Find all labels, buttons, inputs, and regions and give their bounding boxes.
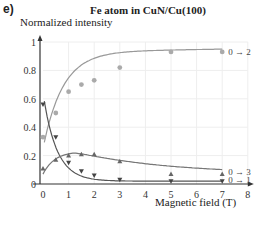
data-point-circle bbox=[79, 82, 84, 87]
data-point-circle bbox=[41, 135, 46, 140]
x-tick-label: 5 bbox=[169, 189, 174, 200]
chart-plot: 01234567800.20.40.60.810 → 20 → 10 → 3 bbox=[0, 0, 269, 234]
series-label: 0 → 3 bbox=[228, 167, 251, 177]
y-tick-label: 1 bbox=[31, 37, 36, 48]
data-point-circle bbox=[169, 50, 174, 55]
y-tick-label: 0.8 bbox=[24, 65, 37, 76]
x-tick-label: 6 bbox=[194, 189, 199, 200]
series-label: 0 → 2 bbox=[228, 47, 251, 57]
x-tick-label: 3 bbox=[117, 189, 122, 200]
x-tick-label: 1 bbox=[66, 189, 71, 200]
x-tick-label: 0 bbox=[41, 189, 46, 200]
y-tick-label: 0.6 bbox=[24, 94, 37, 105]
y-axis-arrow-icon bbox=[38, 35, 43, 41]
y-tick-label: 0 bbox=[31, 179, 36, 190]
data-point-triangle-down bbox=[92, 173, 97, 178]
data-point-circle bbox=[220, 50, 225, 55]
data-point-circle bbox=[92, 78, 97, 83]
y-tick-label: 0.4 bbox=[24, 122, 37, 133]
data-point-triangle-down bbox=[117, 178, 122, 183]
y-tick-label: 0.2 bbox=[24, 151, 37, 162]
data-point-triangle-down bbox=[79, 169, 84, 174]
data-point-circle bbox=[117, 65, 122, 70]
x-tick-label: 4 bbox=[143, 189, 148, 200]
data-point-triangle-up bbox=[41, 166, 46, 171]
data-point-triangle-up bbox=[220, 172, 225, 177]
data-point-triangle-down bbox=[66, 161, 71, 166]
data-point-circle bbox=[53, 111, 58, 116]
data-point-triangle-up bbox=[92, 152, 97, 157]
x-tick-label: 2 bbox=[92, 189, 97, 200]
data-point-triangle-down bbox=[53, 135, 58, 140]
x-tick-label: 8 bbox=[245, 189, 250, 200]
fit-curve-0-2 bbox=[44, 49, 222, 142]
fit-curve-0-1 bbox=[44, 101, 222, 181]
data-point-triangle-up bbox=[169, 172, 174, 177]
x-tick-label: 7 bbox=[220, 189, 225, 200]
data-point-circle bbox=[66, 89, 71, 94]
